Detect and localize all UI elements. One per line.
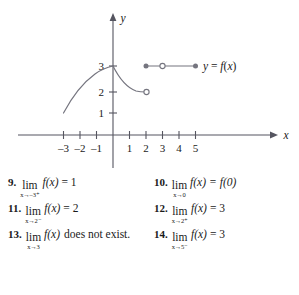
exercise-item-13: 13. lim x→3 f(x) does not exist. xyxy=(0,228,150,247)
limit-subscript: x→3 xyxy=(27,244,39,251)
exercise-result: = 1 xyxy=(61,176,76,189)
limit-operator: lim x→2⁺ xyxy=(172,206,188,224)
open-point-2-2 xyxy=(144,89,149,94)
exercise-number: 12. xyxy=(154,202,168,214)
exercise-result: = 3 xyxy=(210,202,225,215)
function-expression: f(x) xyxy=(191,202,207,215)
x-tick-label-1: 1 xyxy=(127,142,133,154)
exercise-number: 9. xyxy=(8,176,16,188)
x-tick-label-2: 2 xyxy=(143,142,149,154)
lim-keyword: lim xyxy=(26,206,41,218)
function-graph-svg: –3 –2 –1 1 2 3 4 5 1 2 3 x y y = f(x) xyxy=(0,0,299,172)
function-expression: f(x) xyxy=(43,176,59,189)
limit-subscript: x→0 xyxy=(173,192,185,199)
y-tick-label-1: 1 xyxy=(99,107,105,119)
x-tick-label-4: 4 xyxy=(176,142,182,154)
lim-keyword: lim xyxy=(172,232,187,244)
limit-subscript: x→2⁺ xyxy=(172,218,188,225)
exercise-tail: does not exist. xyxy=(64,228,130,241)
exercise-result: = 2 xyxy=(63,202,78,215)
closed-point-2-3 xyxy=(144,64,149,69)
exercise-number: 10. xyxy=(154,176,168,188)
exercise-row: 9. lim x→–3⁺ f(x) = 1 10. lim x→0 f(x) =… xyxy=(0,176,299,202)
exercise-list: 9. lim x→–3⁺ f(x) = 1 10. lim x→0 f(x) =… xyxy=(0,176,299,295)
function-expression: f(x) xyxy=(190,176,206,189)
exercise-result: = 3 xyxy=(210,228,225,241)
function-expression: f(x) xyxy=(44,228,60,241)
lim-keyword: lim xyxy=(22,180,37,192)
x-tick-label-3: 3 xyxy=(160,142,166,154)
exercise-row: 13. lim x→3 f(x) does not exist. 14. lim… xyxy=(0,228,299,254)
exercise-row: 11. lim x→2⁻ f(x) = 2 12. lim x→2⁺ f(x) … xyxy=(0,202,299,228)
limit-subscript: x→–3⁺ xyxy=(20,192,39,199)
x-axis-arrowhead xyxy=(270,132,278,139)
curve-label: y = f(x) xyxy=(202,60,237,73)
y-axis-label: y xyxy=(119,12,126,25)
limit-operator: lim x→0 xyxy=(172,180,187,198)
open-point-3-3 xyxy=(160,63,165,68)
x-tick-label--3: –3 xyxy=(57,142,70,154)
y-tick-label-2: 2 xyxy=(99,86,105,98)
exercise-item-11: 11. lim x→2⁻ f(x) = 2 xyxy=(0,202,150,221)
exercise-item-12: 12. lim x→2⁺ f(x) = 3 xyxy=(150,202,299,221)
limit-operator: lim x→3 xyxy=(26,232,41,250)
x-axis-label: x xyxy=(282,129,289,141)
exercise-item-14: 14. lim x→5⁻ f(x) = 3 xyxy=(150,228,299,247)
limit-operator: lim x→–3⁺ xyxy=(20,180,39,198)
exercise-number: 11. xyxy=(8,202,21,214)
curve-middle-branch xyxy=(113,66,146,92)
limit-subscript: x→5⁻ xyxy=(172,244,188,251)
limit-operator: lim x→2⁻ xyxy=(25,206,41,224)
lim-keyword: lim xyxy=(172,206,187,218)
x-tick-label--2: –2 xyxy=(74,142,86,154)
function-expression: f(x) xyxy=(191,228,207,241)
x-tick-label--1: –1 xyxy=(90,142,102,154)
y-axis-arrowhead xyxy=(110,13,117,21)
exercise-item-10: 10. lim x→0 f(x) = f(0) xyxy=(150,176,299,195)
exercise-number: 13. xyxy=(8,228,22,240)
graph-figure: –3 –2 –1 1 2 3 4 5 1 2 3 x y y = f(x) xyxy=(0,0,299,172)
curve-left-branch xyxy=(64,66,114,113)
lim-keyword: lim xyxy=(172,180,187,192)
closed-point-5-3 xyxy=(193,64,198,69)
limit-subscript: x→2⁻ xyxy=(25,218,41,225)
limit-operator: lim x→5⁻ xyxy=(172,232,188,250)
exercise-result: = f(0) xyxy=(209,176,236,189)
exercise-item-9: 9. lim x→–3⁺ f(x) = 1 xyxy=(0,176,150,195)
exercise-number: 14. xyxy=(154,228,168,240)
x-tick-label-5: 5 xyxy=(193,142,199,154)
function-expression: f(x) xyxy=(44,202,60,215)
lim-keyword: lim xyxy=(26,232,41,244)
